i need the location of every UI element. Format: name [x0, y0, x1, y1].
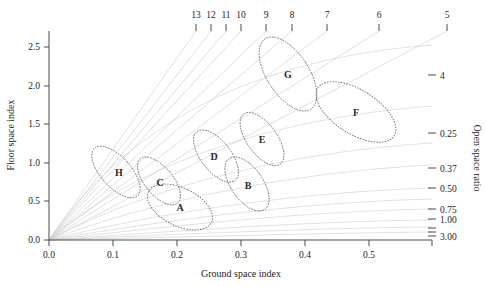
top-tick-label-5: 5	[445, 10, 450, 20]
y-tick-label-4: 2.0	[28, 81, 40, 91]
cluster-label-A: A	[176, 202, 184, 213]
top-tick-label-8: 8	[290, 10, 295, 20]
y-tick-label-1: 0.5	[28, 196, 40, 206]
x-tick-label-4: 0.4	[299, 250, 311, 260]
cluster-label-G: G	[284, 69, 292, 80]
cluster-label-D: D	[210, 151, 217, 162]
right-tick-label-300: 3.00	[440, 232, 457, 242]
radial-layer-lines	[49, 31, 447, 240]
x-tick-label-0: 0.0	[43, 250, 55, 260]
y-tick-label-3: 1.5	[28, 119, 40, 129]
right-tick-label-100: 1.00	[440, 215, 457, 225]
right-tick-label-4: 4	[440, 71, 445, 81]
x-tick-label-5: 0.5	[363, 250, 375, 260]
x-axis: 0.0 0.1 0.2 0.3 0.4 0.5 Ground space ind…	[43, 240, 432, 279]
top-tick-label-9: 9	[264, 10, 269, 20]
y-tick-label-5: 2.5	[28, 42, 40, 52]
top-tick-label-10: 10	[236, 10, 246, 20]
right-tick-label-075: 0.75	[440, 205, 457, 215]
right-tick-label-050: 0.50	[440, 184, 457, 194]
cluster-label-H: H	[115, 167, 123, 178]
y-tick-label-2: 1.0	[28, 158, 40, 168]
x-tick-label-3: 0.3	[235, 250, 247, 260]
y-tick-label-0: 0.0	[28, 235, 40, 245]
right-tick-label-025: 0.25	[440, 129, 457, 139]
x-axis-title: Ground space index	[201, 268, 281, 279]
mixed-diagram-scatter-plot: 0.0 0.5 1.0 1.5 2.0 2.5 Floor space inde…	[0, 0, 486, 287]
top-tick-label-6: 6	[377, 10, 382, 20]
top-axis: 13 12 11 10 9 8 7 6 5	[191, 10, 449, 31]
y-axis: 0.0 0.5 1.0 1.5 2.0 2.5 Floor space inde…	[5, 31, 49, 245]
chart-figure: 0.0 0.5 1.0 1.5 2.0 2.5 Floor space inde…	[0, 0, 486, 287]
cluster-label-F: F	[353, 107, 359, 118]
right-axis: 4 0.25 0.37 0.50 0.75 1.00 3.00 Open spa…	[428, 71, 483, 242]
x-tick-label-2: 0.2	[171, 250, 183, 260]
y-axis-title: Floor space index	[5, 99, 16, 170]
top-tick-label-11: 11	[221, 10, 230, 20]
top-tick-label-12: 12	[206, 10, 216, 20]
right-tick-label-037: 0.37	[440, 164, 457, 174]
cluster-label-B: B	[245, 180, 252, 191]
cluster-label-E: E	[259, 134, 266, 145]
top-tick-label-13: 13	[191, 10, 201, 20]
cluster-label-C: C	[156, 177, 163, 188]
open-space-ratio-curves	[49, 45, 432, 240]
y2-axis-title: Open space ratio	[472, 124, 483, 191]
top-tick-label-7: 7	[325, 10, 330, 20]
x-tick-label-1: 0.1	[107, 250, 119, 260]
